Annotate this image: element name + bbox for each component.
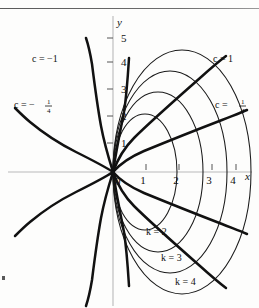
- trajectory-c-pos-one-lower: [113, 172, 226, 288]
- x-tick-label-1: 1: [140, 174, 146, 186]
- diagram-svg: 1 2 3 4 1 2 3 4 5 0 x y c = −1 c = 1 c =…: [0, 0, 259, 308]
- label-c-pos-quarter-numerator: 1: [241, 98, 245, 106]
- x-axis-label: x: [244, 170, 250, 182]
- y-tick-label-2: 2: [121, 110, 127, 122]
- label-c-neg-quarter-numerator: 1: [47, 98, 51, 106]
- trajectory-c-neg-one-lower: [86, 172, 113, 306]
- x-tick-label-4: 4: [230, 174, 236, 186]
- y-axis-ticks: [107, 38, 113, 143]
- label-c-neg-one: c = −1: [32, 53, 58, 64]
- label-c-neg-quarter-denominator: 4: [47, 107, 51, 115]
- trajectory-c-neg-one: [86, 38, 113, 172]
- trajectory-c-pos-one: [113, 56, 226, 172]
- x-tick-label-2: 2: [173, 174, 179, 186]
- label-k-three: k = 3: [161, 252, 182, 263]
- label-c-pos-one: c = 1: [213, 53, 233, 64]
- figure-panel: 1 2 3 4 1 2 3 4 5 0 x y c = −1 c = 1 c =…: [0, 0, 259, 308]
- label-k-four: k = 4: [175, 276, 196, 287]
- label-c-pos-quarter-denominator: 4: [241, 107, 245, 115]
- y-tick-label-1: 1: [121, 137, 127, 149]
- y-tick-label-4: 4: [121, 56, 127, 68]
- x-axis-ticks: [146, 164, 236, 170]
- y-axis-label: y: [116, 16, 122, 28]
- tick-label-group: 1 2 3 4 1 2 3 4 5 0 x y: [115, 16, 250, 187]
- label-c-pos-quarter: c = 1 4: [215, 98, 246, 115]
- label-c-pos-quarter-prefix: c =: [215, 99, 228, 110]
- x-tick-label-3: 3: [206, 174, 212, 186]
- y-tick-label-5: 5: [121, 32, 127, 44]
- label-c-neg-quarter-prefix: c = −: [14, 99, 35, 110]
- y-tick-label-3: 3: [121, 83, 127, 95]
- origin-label: 0: [115, 175, 121, 187]
- label-k-two: k = 2: [146, 226, 167, 237]
